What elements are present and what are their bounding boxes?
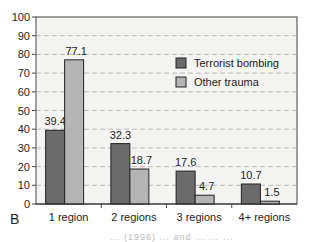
x-tick-label: 1 region [49,211,89,223]
panel-label: B [10,211,19,227]
legend-swatch-1 [176,77,186,87]
y-tick-label: 100 [12,11,30,23]
x-tick-label: 3 regions [176,211,222,223]
x-tick-label: 2 regions [111,211,157,223]
bar-other-trauma [130,169,149,204]
bar-other-trauma [195,195,214,204]
data-label: 4.7 [199,180,214,192]
y-tick-label: 30 [18,142,30,154]
y-tick-label: 80 [18,48,30,60]
bar-other-trauma [65,60,84,204]
y-tick-label: 70 [18,67,30,79]
legend-label: Terrorist bombing [194,57,279,69]
y-tick-label: 90 [18,30,30,42]
y-tick-label: 50 [18,105,30,117]
data-label: 17.6 [175,156,196,168]
y-tick-label: 20 [18,161,30,173]
legend-swatch-0 [176,58,186,68]
legend-label: Other trauma [194,76,260,88]
data-label: 32.3 [110,129,131,141]
data-label: 10.7 [240,169,261,181]
y-tick-label: 0 [24,198,30,210]
bar-terrorist-bombing [46,130,65,204]
bar-terrorist-bombing [111,144,130,204]
data-label: 39.4 [44,115,65,127]
data-label: 77.1 [65,45,86,57]
x-tick-label: 4+ regions [239,211,291,223]
y-tick-label: 60 [18,86,30,98]
data-label: 1.5 [264,186,279,198]
y-tick-label: 10 [18,179,30,191]
bar-terrorist-bombing [176,171,195,204]
bar-terrorist-bombing [241,184,260,204]
y-tick-label: 40 [18,123,30,135]
caption-fragment: ... (1996) ... and ... ... ... [110,232,234,242]
data-label: 18.7 [131,154,152,166]
